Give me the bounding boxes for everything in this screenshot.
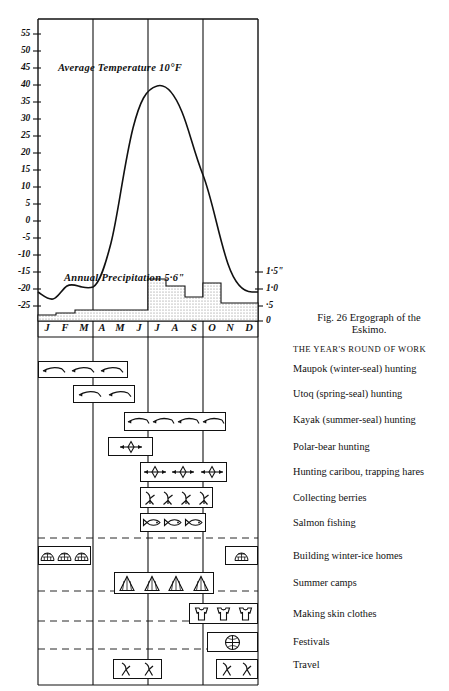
figure-caption-line1: Fig. 26 Ergograph of the bbox=[317, 312, 420, 323]
y2tick-label: 1·0 bbox=[266, 283, 300, 293]
walker-icon bbox=[119, 661, 133, 677]
activity-bar-caribou-hunting[interactable] bbox=[140, 462, 227, 482]
ytick-label: 5 bbox=[4, 198, 30, 208]
activity-label-caribou: Hunting caribou, trapping hares bbox=[293, 466, 424, 477]
xtick-label-dec: D bbox=[240, 322, 258, 333]
ytick-label: 45 bbox=[4, 62, 30, 72]
xtick-label-oct: O bbox=[203, 322, 221, 333]
activity-bar-travel-autumn[interactable] bbox=[216, 659, 258, 679]
harpoon-icon bbox=[142, 465, 168, 479]
harpoon-icon bbox=[170, 465, 196, 479]
figure-caption-line2: Eskimo. bbox=[352, 324, 387, 335]
ytick-label: 35 bbox=[4, 96, 30, 106]
activity-bar-winter-ice-homes-second[interactable] bbox=[225, 546, 258, 565]
seal-icon bbox=[106, 388, 133, 401]
precipitation-annotation: Annual Precipitation 5·6" bbox=[64, 272, 184, 283]
ergograph-figure: 55 50 45 40 35 30 25 20 15 10 5 0 -5 -10… bbox=[0, 0, 449, 691]
ytick-label: -20 bbox=[4, 283, 30, 293]
y-axis-ticks bbox=[33, 34, 41, 306]
activity-label-festivals: Festivals bbox=[293, 636, 330, 647]
activity-bar-utoq-hunting[interactable] bbox=[73, 385, 135, 403]
ytick-label: 0 bbox=[4, 215, 30, 225]
harpoon-icon bbox=[116, 440, 146, 454]
igloo-icon bbox=[74, 549, 89, 562]
igloo-icon bbox=[234, 549, 249, 562]
xtick-label-nov: N bbox=[221, 322, 239, 333]
activity-label-ice-homes: Building winter-ice homes bbox=[293, 550, 403, 561]
activity-bar-winter-ice-homes[interactable] bbox=[38, 546, 91, 565]
activity-bar-kayak-hunting[interactable] bbox=[124, 412, 226, 431]
activity-bar-festivals[interactable] bbox=[207, 632, 258, 652]
igloo-icon bbox=[57, 549, 72, 562]
ytick-label: -15 bbox=[4, 266, 30, 276]
fish-icon bbox=[142, 517, 162, 528]
ytick-label: 55 bbox=[4, 28, 30, 38]
activity-bar-making-skin-clothes[interactable] bbox=[189, 603, 258, 624]
activity-label-utoq: Utoq (spring-seal) hunting bbox=[293, 388, 402, 399]
activity-label-maupok: Maupok (winter-seal) hunting bbox=[293, 363, 416, 374]
kayak-icon bbox=[151, 415, 175, 428]
activity-bar-polar-bear-hunting[interactable] bbox=[108, 437, 153, 456]
activity-bar-salmon-fishing[interactable] bbox=[140, 513, 206, 532]
activity-bar-travel-spring[interactable] bbox=[113, 659, 162, 679]
ytick-label: 50 bbox=[4, 45, 30, 55]
ytick-label: -5 bbox=[4, 232, 30, 242]
kayak-icon bbox=[201, 415, 225, 428]
xtick-label-apr: A bbox=[93, 322, 111, 333]
berry-picker-icon bbox=[142, 490, 157, 506]
activity-bar-maupok-hunting[interactable] bbox=[38, 361, 128, 378]
walker-icon bbox=[220, 661, 234, 677]
seal-icon bbox=[76, 388, 103, 401]
xtick-label-mar: M bbox=[75, 322, 93, 333]
seal-icon bbox=[41, 364, 67, 376]
seal-icon bbox=[99, 364, 125, 376]
fish-icon bbox=[184, 517, 204, 528]
berry-picker-icon bbox=[178, 490, 193, 506]
tent-icon bbox=[118, 575, 136, 592]
igloo-icon bbox=[40, 549, 55, 562]
parka-icon bbox=[237, 606, 254, 622]
ytick-label: 15 bbox=[4, 164, 30, 174]
berry-picker-icon bbox=[160, 490, 175, 506]
ytick-label: 20 bbox=[4, 147, 30, 157]
figure-caption: Fig. 26 Ergograph of the Eskimo. bbox=[293, 312, 445, 336]
xtick-label-jan: J bbox=[38, 322, 56, 333]
seal-icon bbox=[70, 364, 96, 376]
temperature-annotation: Average Temperature 10°F bbox=[58, 62, 182, 73]
walker-icon bbox=[240, 661, 254, 677]
ytick-label: 40 bbox=[4, 79, 30, 89]
activity-label-salmon: Salmon fishing bbox=[293, 517, 356, 528]
tent-icon bbox=[192, 575, 210, 592]
xtick-label-jul: J bbox=[148, 322, 166, 333]
activity-label-skin-clothes: Making skin clothes bbox=[293, 608, 377, 619]
drum-icon bbox=[223, 634, 242, 651]
activity-label-summer-camps: Summer camps bbox=[293, 577, 357, 588]
activity-bar-summer-camps[interactable] bbox=[114, 572, 214, 594]
kayak-icon bbox=[176, 415, 200, 428]
activity-bar-collecting-berries[interactable] bbox=[140, 487, 213, 508]
berry-picker-icon bbox=[196, 490, 211, 506]
walker-icon bbox=[142, 661, 156, 677]
xtick-label-sep: S bbox=[185, 322, 203, 333]
xtick-label-feb: F bbox=[56, 322, 74, 333]
harpoon-icon bbox=[199, 465, 225, 479]
activity-label-polar-bear: Polar-bear hunting bbox=[293, 441, 370, 452]
kayak-icon bbox=[126, 415, 150, 428]
xtick-label-aug: A bbox=[166, 322, 184, 333]
ytick-label: 10 bbox=[4, 181, 30, 191]
xtick-label-may: M bbox=[111, 322, 129, 333]
tent-icon bbox=[143, 575, 161, 592]
figure-subtitle: THE YEAR'S ROUND OF WORK bbox=[293, 344, 449, 354]
activity-label-travel: Travel bbox=[293, 659, 320, 670]
ytick-label: -10 bbox=[4, 249, 30, 259]
activity-label-kayak: Kayak (summer-seal) hunting bbox=[293, 414, 416, 425]
tent-icon bbox=[167, 575, 185, 592]
fish-icon bbox=[163, 517, 183, 528]
ytick-label: 25 bbox=[4, 130, 30, 140]
parka-icon bbox=[193, 606, 210, 622]
parka-icon bbox=[215, 606, 232, 622]
y2tick-label: 1·5" bbox=[266, 266, 300, 276]
xtick-label-jun: J bbox=[130, 322, 148, 333]
activity-label-berries: Collecting berries bbox=[293, 492, 367, 503]
y2tick-label: ·5 bbox=[266, 300, 300, 310]
